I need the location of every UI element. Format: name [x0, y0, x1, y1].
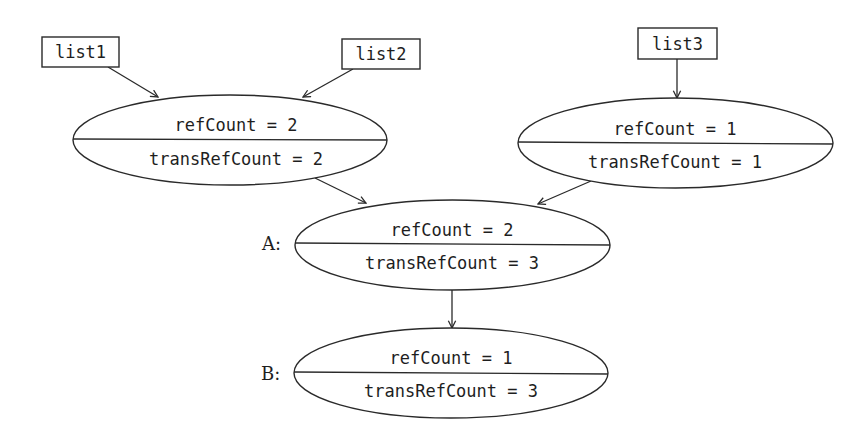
- transrefcount-text: transRefCount = 3: [365, 253, 539, 273]
- list-box-list2: list2: [342, 39, 420, 69]
- node-label-A: A:: [261, 233, 281, 254]
- node-label-B: B:: [261, 363, 280, 384]
- refcount-text: refCount = 1: [614, 119, 737, 139]
- refcount-text: refCount = 1: [390, 348, 513, 368]
- refcount-text: refCount = 2: [175, 115, 298, 135]
- list-label: list3: [652, 34, 703, 54]
- node-ellipse-1: refCount = 2 transRefCount = 2: [73, 95, 387, 185]
- node-ellipse-B: B: refCount = 1 transRefCount = 3: [261, 328, 608, 418]
- node-ellipse-2: refCount = 1 transRefCount = 1: [518, 98, 833, 188]
- refcount-text: refCount = 2: [391, 220, 514, 240]
- transrefcount-text: transRefCount = 2: [149, 149, 323, 169]
- list-box-list1: list1: [42, 37, 119, 67]
- edge-list2-to-node1: [303, 69, 353, 97]
- reference-count-diagram: list1 list2 list3 refCount = 2 transRefC…: [0, 0, 868, 441]
- edge-node2-to-nodeA: [538, 181, 591, 204]
- list-label: list1: [55, 42, 106, 62]
- transrefcount-text: transRefCount = 1: [588, 152, 762, 172]
- node-ellipse-A: A: refCount = 2 transRefCount = 3: [261, 200, 610, 290]
- transrefcount-text: transRefCount = 3: [364, 381, 538, 401]
- list-box-list3: list3: [638, 28, 717, 59]
- edge-list1-to-node1: [108, 67, 158, 97]
- edge-node1-to-nodeA: [315, 178, 366, 203]
- list-label: list2: [355, 44, 406, 64]
